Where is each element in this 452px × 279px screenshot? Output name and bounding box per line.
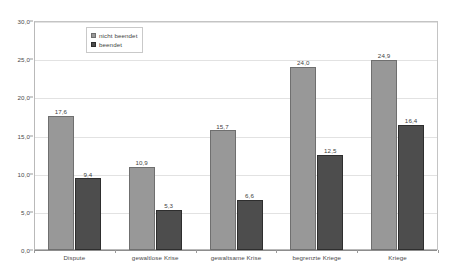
bar-value-label: 16,4 xyxy=(405,117,417,124)
legend-label: nicht beendet xyxy=(99,32,137,39)
bar: 10,9 xyxy=(129,167,155,250)
y-axis-tick-mark xyxy=(30,97,33,98)
y-axis-tick-mark xyxy=(30,173,33,174)
y-axis-tick-mark xyxy=(30,211,33,212)
axis-baseline xyxy=(35,250,437,251)
bar: 16,4 xyxy=(398,125,424,250)
x-axis-tick-mark xyxy=(438,250,439,253)
x-axis-tick-label: gewaltlose Krise xyxy=(132,254,179,261)
bar-value-label: 15,7 xyxy=(216,123,228,130)
y-axis-tick-mark xyxy=(30,21,33,22)
x-axis-tick-mark xyxy=(34,250,35,253)
bar-group: 24,916,4 xyxy=(371,21,424,250)
bars-layer: 17,69,410,95,315,76,624,012,524,916,4 xyxy=(34,21,438,250)
y-axis-tick-mark xyxy=(30,135,33,136)
bar-value-label: 12,5 xyxy=(324,147,336,154)
bar-group: 17,69,4 xyxy=(48,21,101,250)
x-axis-tick-label: gewaltsame Krise xyxy=(211,254,261,261)
bar: 6,6 xyxy=(237,200,263,250)
bar: 24,0 xyxy=(290,67,316,250)
bar: 12,5 xyxy=(317,155,343,250)
x-axis-tick-mark xyxy=(357,250,358,253)
bar: 9,4 xyxy=(75,178,101,250)
x-axis-tick-label: begrenzte Kriege xyxy=(292,254,341,261)
bar-group: 10,95,3 xyxy=(129,21,182,250)
y-axis-tick-label: 25,0 xyxy=(0,56,30,63)
x-axis-tick-mark xyxy=(115,250,116,253)
legend-swatch-icon xyxy=(91,33,96,38)
x-axis-tick-label: Dispute xyxy=(64,254,86,261)
bar: 17,6 xyxy=(48,116,74,250)
legend-item: nicht beendet xyxy=(91,32,137,40)
y-axis-tick-label: 30,0 xyxy=(0,18,30,25)
bar-group: 24,012,5 xyxy=(290,21,343,250)
x-axis-tick-label: Kriege xyxy=(388,254,407,261)
bar-value-label: 9,4 xyxy=(83,171,92,178)
bar: 5,3 xyxy=(156,210,182,250)
bar-value-label: 10,9 xyxy=(135,159,147,166)
y-axis-tick-label: 20,0 xyxy=(0,94,30,101)
legend: nicht beendetbeendet xyxy=(86,27,143,53)
x-axis-tick-mark xyxy=(276,250,277,253)
y-axis-tick-mark xyxy=(30,250,33,251)
legend-label: beendet xyxy=(99,41,122,48)
y-axis-tick-label: 10,0 xyxy=(0,170,30,177)
x-axis-tick-mark xyxy=(196,250,197,253)
legend-item: beendet xyxy=(91,40,137,48)
legend-swatch-icon xyxy=(91,42,96,47)
bar-chart: 0,05,010,015,020,025,030,0 17,69,410,95,… xyxy=(0,0,452,279)
bar-value-label: 5,3 xyxy=(164,202,173,209)
x-axis: Disputegewaltlose Krisegewaltsame Kriseb… xyxy=(34,254,438,274)
bar-value-label: 24,9 xyxy=(378,52,390,59)
y-axis-tick-label: 15,0 xyxy=(0,132,30,139)
y-axis-tick-label: 5,0 xyxy=(0,208,30,215)
bar-group: 15,76,6 xyxy=(210,21,263,250)
bar-value-label: 6,6 xyxy=(245,192,254,199)
bar-value-label: 17,6 xyxy=(55,108,67,115)
bar-value-label: 24,0 xyxy=(297,59,309,66)
y-axis-tick-label: 0,0 xyxy=(0,247,30,254)
bar: 24,9 xyxy=(371,60,397,250)
y-axis-tick-mark xyxy=(30,59,33,60)
bar: 15,7 xyxy=(210,130,236,250)
